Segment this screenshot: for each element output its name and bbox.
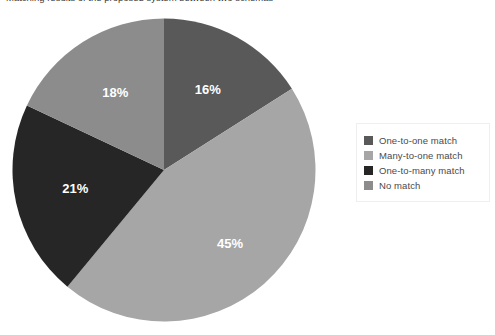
pie-slice-value-label: 45% (217, 236, 243, 251)
pie-slice-value-label: 18% (102, 85, 128, 100)
legend-item-label: No match (379, 180, 420, 191)
legend-swatch-icon (364, 151, 373, 160)
legend-item[interactable]: One-to-one match (364, 133, 481, 147)
pie-slice-group (13, 19, 316, 322)
legend-item-label: One-to-one match (379, 135, 457, 146)
chart-legend: One-to-one match Many-to-one match One-t… (356, 123, 490, 202)
figure-caption: Matching results of the proposed system … (6, 0, 476, 5)
legend-swatch-icon (364, 136, 373, 145)
legend-swatch-icon (364, 166, 373, 175)
legend-item-label: One-to-many match (379, 165, 465, 176)
pie-svg: 16%45%21%18% (12, 18, 316, 322)
pie-chart-figure: Matching results of the proposed system … (0, 0, 495, 335)
legend-item[interactable]: One-to-many match (364, 163, 481, 177)
legend-item-label: Many-to-one match (379, 150, 463, 161)
pie-slice-value-label: 21% (62, 181, 88, 196)
pie-chart-plot-area: 16%45%21%18% (12, 18, 316, 322)
legend-swatch-icon (364, 181, 373, 190)
legend-item[interactable]: No match (364, 178, 481, 192)
legend-item[interactable]: Many-to-one match (364, 148, 481, 162)
pie-slice-value-label: 16% (195, 82, 221, 97)
